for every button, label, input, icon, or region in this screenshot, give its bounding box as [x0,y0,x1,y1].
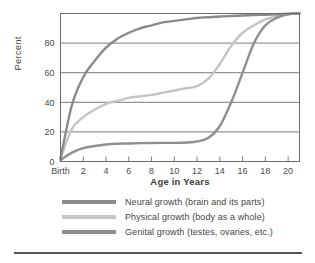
chart-gridlines [61,43,300,132]
x-axis-title: Age in Years [60,176,300,187]
svg-text:18: 18 [260,166,270,176]
legend-label-genital: Genital growth (testes, ovaries, etc.) [125,227,273,237]
legend-item-neural: Neural growth (brain and its parts) [62,194,312,209]
y-axis-tick-labels: 020406080 [44,38,54,166]
growth-curves-figure: 020406080 Birth2468101214161820 Percent … [0,0,315,263]
svg-text:8: 8 [149,166,154,176]
chart-series-lines [61,14,300,161]
svg-text:40: 40 [44,98,54,108]
legend-swatch-neural [62,200,116,204]
chart-plot-area: 020406080 Birth2468101214161820 Percent … [0,0,315,195]
footer-divider [14,252,302,254]
svg-text:20: 20 [44,127,54,137]
y-axis-title: Percent [12,53,23,71]
legend-item-genital: Genital growth (testes, ovaries, etc.) [62,224,312,239]
svg-text:Birth: Birth [51,166,70,176]
x-axis-ticks [61,157,289,162]
svg-text:20: 20 [283,166,293,176]
svg-text:16: 16 [238,166,248,176]
legend-swatch-genital [62,230,116,234]
legend-item-physical: Physical growth (body as a whole) [62,209,312,224]
growth-chart-svg: 020406080 Birth2468101214161820 [0,0,315,195]
legend-label-physical: Physical growth (body as a whole) [125,212,265,222]
svg-text:80: 80 [44,38,54,48]
chart-legend: Neural growth (brain and its parts) Phys… [62,194,312,239]
svg-text:2: 2 [81,166,86,176]
svg-text:12: 12 [192,166,202,176]
svg-text:4: 4 [104,166,109,176]
legend-swatch-physical [62,215,116,219]
legend-label-neural: Neural growth (brain and its parts) [125,197,265,207]
x-axis-tick-labels: Birth2468101214161820 [51,166,293,176]
svg-text:14: 14 [215,166,225,176]
svg-text:6: 6 [126,166,131,176]
plot-frame [61,14,300,162]
svg-text:10: 10 [169,166,179,176]
svg-text:60: 60 [44,68,54,78]
